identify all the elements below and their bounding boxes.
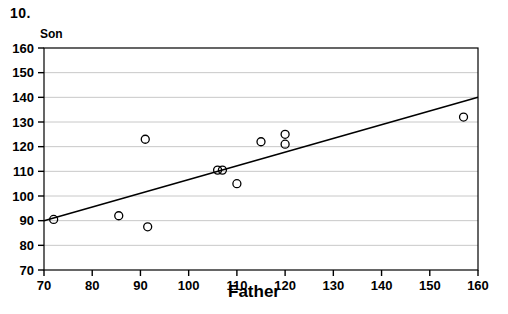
data-point-markers (50, 113, 468, 231)
plot-canvas: 708090100110120130140150160 708090100110… (0, 0, 508, 314)
x-axis-ticks (44, 270, 478, 276)
x-axis-title: Father (0, 283, 508, 300)
y-tick-label: 70 (20, 263, 34, 278)
data-point (115, 212, 123, 220)
scatter-plot-figure: 10. Son 708090100110120130140150160 7080… (0, 0, 508, 314)
y-tick-label: 140 (12, 90, 34, 105)
y-tick-label: 160 (12, 41, 34, 56)
y-tick-label: 130 (12, 115, 34, 130)
y-axis-ticks (38, 48, 44, 270)
y-tick-label: 100 (12, 189, 34, 204)
data-point (257, 138, 265, 146)
y-tick-label: 110 (13, 164, 34, 179)
data-point (141, 135, 149, 143)
data-point (144, 223, 152, 231)
y-tick-label: 90 (20, 213, 34, 228)
data-point (233, 180, 241, 188)
regression-line (44, 97, 478, 220)
data-point (281, 130, 289, 138)
y-tick-label: 150 (12, 65, 34, 80)
y-tick-label: 120 (12, 139, 34, 154)
y-axis-tick-labels: 708090100110120130140150160 (12, 41, 34, 278)
trend-line-segment (44, 97, 478, 220)
data-point (460, 113, 468, 121)
y-tick-label: 80 (20, 238, 34, 253)
